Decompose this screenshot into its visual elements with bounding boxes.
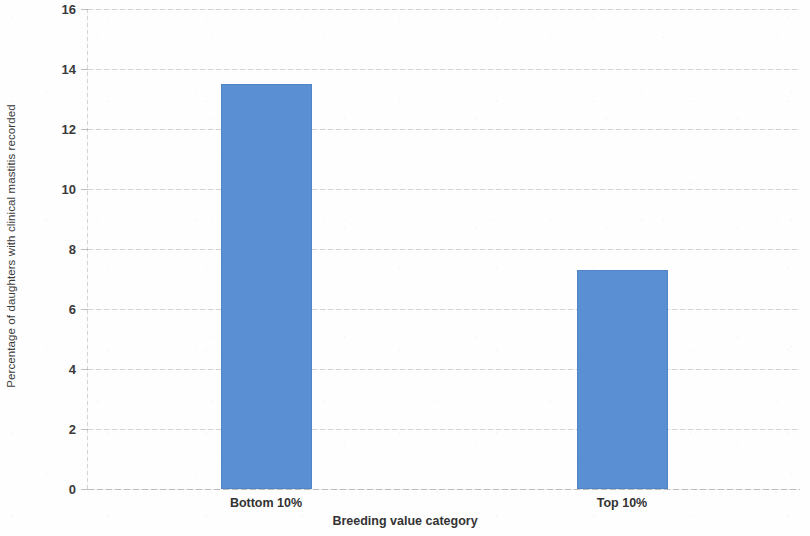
- y-axis-tick-label: 14: [24, 62, 76, 77]
- gridline: [88, 129, 800, 130]
- gridline: [88, 369, 800, 370]
- bar-chart-figure: Percentage of daughters with clinical ma…: [0, 0, 810, 536]
- axis-baseline: [88, 489, 800, 490]
- gridline: [88, 249, 800, 250]
- y-axis-tick-mark: [81, 249, 88, 250]
- plot-area: [88, 9, 800, 489]
- y-axis-tick-label: 6: [24, 302, 76, 317]
- y-axis-tick-label: 4: [24, 362, 76, 377]
- y-axis-tick-label: 2: [24, 422, 76, 437]
- y-axis-tick-mark: [81, 189, 88, 190]
- gridline: [88, 9, 800, 10]
- y-axis-tick-label: 12: [24, 122, 76, 137]
- x-axis-title: Breeding value category: [0, 514, 810, 528]
- gridline: [88, 189, 800, 190]
- y-axis-tick-mark: [81, 129, 88, 130]
- gridline: [88, 309, 800, 310]
- y-axis-tick-label: 10: [24, 182, 76, 197]
- y-axis-tick-mark: [81, 489, 88, 490]
- gridline: [88, 69, 800, 70]
- bar[interactable]: [577, 270, 668, 489]
- x-axis-tick-label: Top 10%: [444, 496, 800, 510]
- y-axis-title-text: Percentage of daughters with clinical ma…: [5, 104, 17, 388]
- y-axis-tick-mark: [81, 429, 88, 430]
- y-axis-tick-label: 16: [24, 2, 76, 17]
- y-axis-tick-mark: [81, 9, 88, 10]
- y-axis-tick-mark: [81, 69, 88, 70]
- y-axis-tick-mark: [81, 369, 88, 370]
- y-axis-tick-mark: [81, 309, 88, 310]
- y-axis-tick-label: 8: [24, 242, 76, 257]
- x-axis-tick-label: Bottom 10%: [88, 496, 444, 510]
- y-axis-tick-labels: 0246810121416: [24, 0, 76, 536]
- y-axis-title: Percentage of daughters with clinical ma…: [0, 0, 22, 492]
- gridline: [88, 429, 800, 430]
- bar[interactable]: [221, 84, 312, 489]
- y-axis-tick-label: 0: [24, 482, 76, 497]
